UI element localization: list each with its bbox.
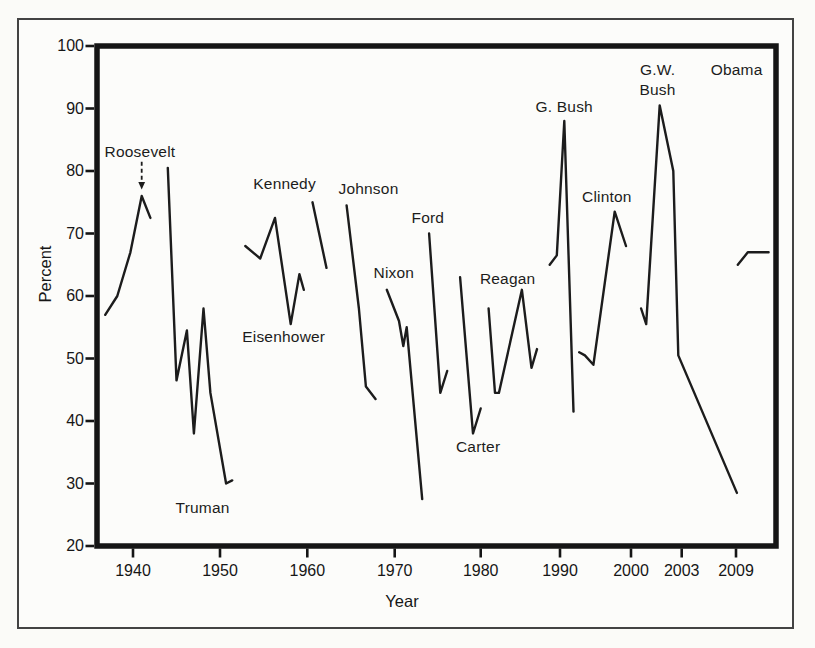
- president-label-clinton: Clinton: [582, 188, 632, 207]
- x-tick-label-2009: 2009: [704, 561, 768, 580]
- x-tick-label-1950: 1950: [188, 561, 252, 580]
- series-line-eisenhower: [245, 218, 303, 324]
- y-tick-label-50: 50: [42, 349, 84, 369]
- x-axis-title: Year: [385, 592, 418, 611]
- president-label-kennedy: Kennedy: [253, 174, 316, 193]
- y-tick-label-30: 30: [42, 474, 84, 494]
- president-label-reagan: Reagan: [480, 269, 536, 288]
- plot-frame: [97, 46, 776, 546]
- y-axis-title: Percent: [36, 246, 55, 303]
- x-tick-label-1960: 1960: [275, 561, 339, 580]
- y-tick-label-20: 20: [42, 536, 84, 556]
- president-label-nixon: Nixon: [373, 263, 414, 282]
- series-line-nixon: [387, 290, 422, 499]
- president-label-carter: Carter: [456, 438, 500, 457]
- series-line-obama: [738, 252, 769, 264]
- president-label-johnson: Johnson: [338, 179, 398, 198]
- series-line-ford: [429, 234, 447, 393]
- series-line-reagan: [489, 290, 537, 393]
- x-tick-label-1980: 1980: [449, 561, 513, 580]
- president-label-g-w-bush: G.W. Bush: [639, 60, 675, 99]
- series-line-g-bush: [550, 121, 574, 412]
- y-tick-label-40: 40: [42, 411, 84, 431]
- president-label-truman: Truman: [176, 498, 230, 517]
- y-tick-label-70: 70: [42, 224, 84, 244]
- series-line-johnson: [347, 205, 376, 399]
- y-tick-label-90: 90: [42, 99, 84, 119]
- series-line-truman: [168, 168, 232, 484]
- president-label-g-bush: G. Bush: [536, 98, 593, 117]
- president-label-eisenhower: Eisenhower: [242, 328, 325, 347]
- series-line-clinton: [579, 212, 626, 365]
- x-tick-label-1970: 1970: [363, 561, 427, 580]
- president-label-roosevelt: Roosevelt: [105, 143, 176, 162]
- roosevelt-arrow-head: [138, 182, 145, 190]
- series-line-carter: [460, 277, 481, 433]
- y-tick-label-80: 80: [42, 161, 84, 181]
- president-label-ford: Ford: [411, 208, 444, 227]
- x-tick-label-1940: 1940: [101, 561, 165, 580]
- x-tick-label-1990: 1990: [528, 561, 592, 580]
- y-tick-label-100: 100: [42, 36, 84, 56]
- series-line-kennedy: [313, 202, 327, 268]
- chart-canvas: [0, 0, 815, 648]
- series-line-g-w-bush: [641, 105, 737, 493]
- series-line-roosevelt: [105, 196, 150, 315]
- president-label-obama: Obama: [711, 60, 763, 79]
